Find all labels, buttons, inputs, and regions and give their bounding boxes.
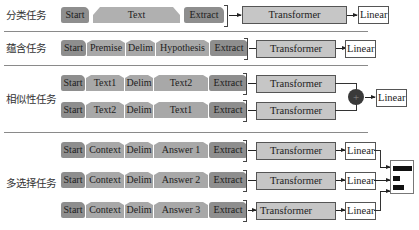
- token-sequence: Start Context Delim Answer 2 Extract: [61, 172, 248, 188]
- connector-line: [380, 150, 381, 167]
- token-context: Context: [86, 142, 124, 158]
- token-sequence: Start Premise Delim Hypothesis Extract: [61, 40, 249, 56]
- transformer-box: Transformer: [256, 142, 336, 160]
- arrow: [380, 191, 390, 192]
- token-extract: Extract: [209, 202, 247, 218]
- token-delim: Delim: [125, 202, 153, 218]
- transformer-box: Transformer: [256, 75, 336, 93]
- task-label-entailment: 蕴含任务: [6, 40, 46, 55]
- arrow: [380, 167, 390, 168]
- token-sequence: Start Text1 Delim Text2 Extract: [61, 75, 248, 91]
- token-answer: Answer 3: [154, 202, 208, 218]
- token-start: Start: [61, 102, 85, 118]
- token-delim: Delim: [125, 102, 153, 118]
- arrow: [374, 180, 390, 181]
- softmax-bar: [393, 166, 412, 171]
- bracket: [243, 170, 247, 192]
- linear-box: Linear: [345, 142, 376, 160]
- bracket: [243, 100, 247, 122]
- token-extract: Extract: [209, 142, 247, 158]
- connector-line: [335, 83, 356, 84]
- bracket: [243, 140, 247, 162]
- arrow: [336, 150, 345, 151]
- bracket: [243, 200, 247, 222]
- linear-box: Linear: [345, 202, 376, 220]
- transformer-box: Transformer: [256, 40, 336, 58]
- token-text1: Text1: [86, 75, 124, 91]
- token-start: Start: [61, 172, 85, 188]
- token-text2: Text2: [86, 102, 124, 118]
- bracket: [244, 38, 248, 60]
- separator: [4, 65, 368, 66]
- token-delim: Delim: [125, 142, 153, 158]
- bracket: [224, 5, 228, 27]
- token-sequence: Start Text2 Delim Text1 Extract: [61, 102, 248, 118]
- token-start: Start: [61, 75, 85, 91]
- linear-box: Linear: [345, 172, 376, 190]
- token-hypothesis: Hypothesis: [156, 40, 209, 56]
- softmax-bars-icon: [390, 160, 414, 194]
- separator: [4, 132, 368, 133]
- token-context: Context: [86, 202, 124, 218]
- token-start: Start: [61, 202, 85, 218]
- softmax-bar: [393, 185, 404, 190]
- linear-box: Linear: [358, 6, 389, 24]
- token-sequence: Start Context Delim Answer 3 Extract: [61, 202, 248, 218]
- separator: [4, 31, 368, 32]
- token-extract: Extract: [210, 40, 248, 56]
- token-extract: Extract: [209, 75, 247, 91]
- task-label-multiple-choice: 多选择任务: [6, 175, 56, 190]
- arrow: [336, 210, 345, 211]
- token-sequence: Start Context Delim Answer 1 Extract: [61, 142, 248, 158]
- token-answer: Answer 1: [154, 142, 208, 158]
- arrow: [365, 97, 375, 98]
- token-start: Start: [61, 142, 85, 158]
- token-context: Context: [86, 172, 124, 188]
- task-label-classification: 分类任务: [6, 7, 46, 22]
- softmax-bar: [393, 176, 400, 181]
- bracket: [243, 73, 247, 95]
- token-extract: Extract: [209, 102, 247, 118]
- token-delim: Delim: [126, 40, 155, 56]
- token-extract: Extract: [209, 172, 247, 188]
- token-delim: Delim: [125, 75, 153, 91]
- plus-circle-icon: +: [348, 89, 364, 105]
- transformer-box: Transformer: [256, 172, 336, 190]
- arrow: [248, 210, 256, 211]
- arrow: [336, 180, 345, 181]
- connector-line: [335, 110, 356, 111]
- token-premise: Premise: [87, 40, 125, 56]
- arrow: [347, 15, 357, 16]
- token-start: Start: [61, 40, 86, 56]
- connector-line: [380, 191, 381, 211]
- token-answer: Answer 2: [154, 172, 208, 188]
- token-start: Start: [61, 7, 89, 23]
- transformer-box: Transformer: [242, 6, 347, 24]
- token-text: Text: [93, 7, 180, 23]
- task-label-similarity: 相似性任务: [6, 91, 56, 106]
- transformer-box: Transformer: [256, 202, 336, 220]
- token-delim: Delim: [125, 172, 153, 188]
- token-text1: Text1: [154, 102, 208, 118]
- linear-box: Linear: [376, 89, 407, 107]
- linear-box: Linear: [345, 40, 376, 58]
- token-text2: Text2: [154, 75, 208, 91]
- transformer-box: Transformer: [256, 102, 336, 120]
- token-sequence: Start Text Extract: [61, 7, 225, 23]
- arrow: [229, 15, 241, 16]
- token-extract: Extract: [184, 7, 224, 23]
